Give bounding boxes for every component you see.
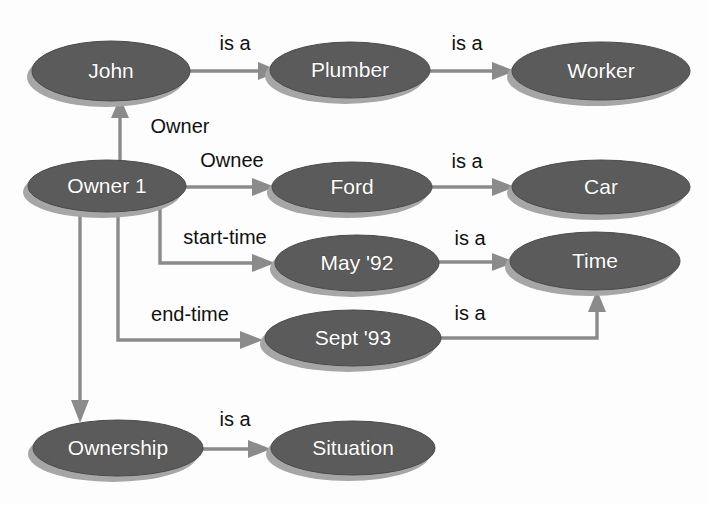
semantic-network-diagram: John Plumber Worker Owner 1 — [0, 0, 708, 505]
node-sept93[interactable]: Sept '93 — [260, 310, 441, 372]
edge-owner1-to-ownership[interactable] — [71, 206, 89, 423]
node-john[interactable]: John — [27, 41, 190, 107]
node-label: Sept '93 — [315, 326, 391, 349]
edge-label-ownership-isa-situation: is a — [219, 408, 251, 430]
edge-label-owner1-owner-john: Owner — [151, 115, 210, 137]
edge-label-owner1-start-time: start-time — [183, 226, 266, 248]
edge-label-owner1-ownee-ford: Ownee — [200, 149, 263, 171]
node-label: John — [88, 59, 134, 82]
node-label: Worker — [567, 59, 634, 82]
node-label: Ford — [330, 175, 373, 198]
node-label: Situation — [312, 436, 394, 459]
node-situation[interactable]: Situation — [266, 421, 435, 481]
edge-ford-isa-car[interactable] — [431, 178, 515, 196]
node-label: Car — [584, 175, 618, 198]
node-may92[interactable]: May '92 — [270, 235, 439, 297]
node-ford[interactable]: Ford — [267, 162, 432, 218]
node-plumber[interactable]: Plumber — [265, 42, 430, 104]
edge-label-sept93-isa-time: is a — [454, 302, 486, 324]
node-label: Plumber — [311, 58, 389, 81]
node-label: Ownership — [68, 436, 168, 459]
node-label: Time — [572, 249, 618, 272]
edge-label-owner1-end-time: end-time — [151, 303, 229, 325]
edge-owner1-ownee-ford[interactable] — [185, 178, 275, 196]
edge-label-john-isa-plumber: is a — [219, 32, 251, 54]
node-worker[interactable]: Worker — [507, 42, 690, 106]
arrow-head-icon — [71, 400, 89, 423]
node-ownership[interactable]: Ownership — [28, 420, 203, 482]
edge-label-ford-isa-car: is a — [451, 150, 483, 172]
node-time[interactable]: Time — [505, 232, 680, 296]
node-car[interactable]: Car — [507, 160, 690, 220]
edge-ownership-isa-situation[interactable] — [202, 440, 271, 458]
edge-may92-isa-time[interactable] — [437, 253, 515, 271]
edge-label-may92-isa-time: is a — [454, 227, 486, 249]
edge-plumber-isa-worker[interactable] — [428, 62, 515, 80]
node-label: Owner 1 — [67, 174, 146, 197]
node-label: May '92 — [321, 251, 394, 274]
edge-label-plumber-isa-worker: is a — [451, 32, 483, 54]
diagram-canvas: John Plumber Worker Owner 1 — [0, 0, 708, 505]
arrow-head-icon — [240, 331, 263, 349]
